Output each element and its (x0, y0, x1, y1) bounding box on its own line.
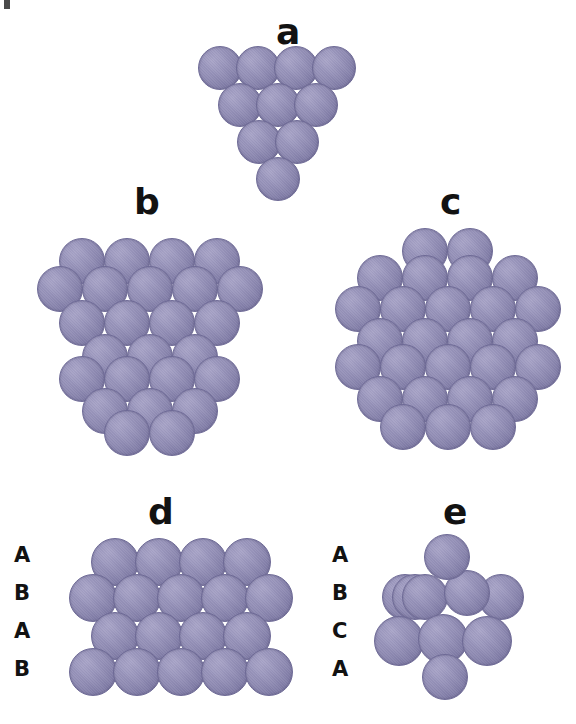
atom (149, 410, 195, 456)
scan-mark (4, 0, 10, 9)
atom (470, 404, 516, 450)
stacking-label-e-2: C (332, 621, 347, 642)
stacking-label-d-0: A (14, 545, 30, 566)
panel-label-a: a (276, 14, 300, 50)
atom (462, 616, 512, 666)
atom (374, 616, 424, 666)
atom (201, 648, 249, 696)
atom (256, 157, 300, 201)
panel-label-d: d (148, 494, 174, 530)
atom (422, 654, 468, 700)
stacking-label-e-1: B (332, 583, 348, 604)
atom (69, 648, 117, 696)
stacking-label-d-2: A (14, 621, 30, 642)
atom (245, 648, 293, 696)
atom (380, 404, 426, 450)
stacking-label-d-3: B (14, 659, 30, 680)
atom (424, 534, 470, 580)
stacking-label-e-0: A (332, 545, 348, 566)
stacking-label-e-3: A (332, 659, 348, 680)
panel-label-c: c (440, 184, 461, 220)
atom (425, 404, 471, 450)
panel-label-e: e (443, 494, 467, 530)
atom (104, 410, 150, 456)
atom (113, 648, 161, 696)
stacking-label-d-1: B (14, 583, 30, 604)
atom (157, 648, 205, 696)
figure-canvas: abcdABABeABCA (0, 0, 576, 724)
panel-label-b: b (134, 184, 160, 220)
